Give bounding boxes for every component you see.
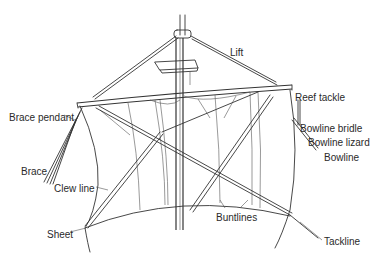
label-brace-pendant: Brace pendant [9, 113, 74, 123]
label-brace: Brace [21, 167, 47, 177]
label-bowline-bridle: Bowline bridle [300, 124, 362, 134]
label-clew-line: Clew line [54, 184, 95, 194]
sail-edges [80, 90, 295, 252]
label-bowline-lizard: Bowline lizard [308, 138, 370, 148]
label-sheet: Sheet [47, 230, 73, 240]
label-lift: Lift [230, 48, 243, 58]
lifts [93, 36, 277, 99]
label-tackline: Tackline [324, 237, 360, 247]
label-buntlines: Buntlines [216, 213, 257, 223]
label-bowline: Bowline [324, 153, 359, 163]
label-reef-tackle: Reef tackle [295, 93, 345, 103]
